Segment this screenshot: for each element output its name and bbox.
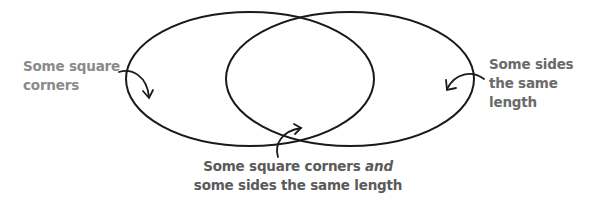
left-arrow-icon — [119, 71, 153, 98]
intersection-label: Some square corners and some sides the s… — [178, 157, 418, 195]
intersection-emphasis: and — [365, 158, 393, 174]
right-label-line2: the same — [489, 74, 579, 93]
right-set-ellipse — [226, 12, 474, 146]
left-label-line1: Some square — [23, 57, 123, 76]
right-arrow-icon — [446, 74, 484, 90]
right-set-label: Some sides the same length — [489, 55, 579, 112]
intersection-label-line2: some sides the same length — [178, 176, 418, 195]
right-label-line1: Some sides — [489, 55, 579, 74]
intersection-label-line1: Some square corners and — [178, 157, 418, 176]
left-set-label: Some square corners — [23, 57, 123, 95]
left-set-ellipse — [126, 12, 374, 146]
right-label-line3: length — [489, 93, 579, 112]
left-label-line2: corners — [23, 76, 123, 95]
